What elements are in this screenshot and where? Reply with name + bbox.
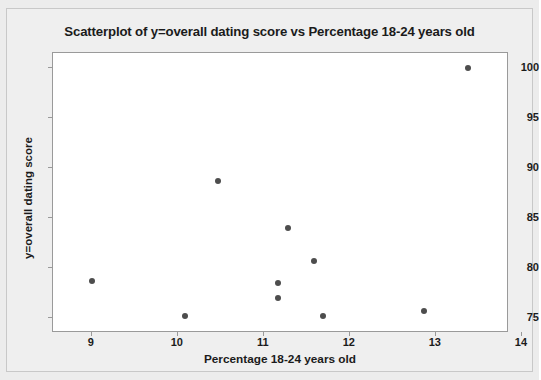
x-tick-label: 12 <box>329 336 369 348</box>
x-tick-mark <box>263 332 264 336</box>
x-tick-label: 14 <box>501 336 541 348</box>
scatter-point <box>182 313 188 319</box>
scatter-point <box>285 225 291 231</box>
scatter-point <box>89 278 95 284</box>
plot-frame <box>52 52 508 332</box>
x-axis-label: Percentage 18-24 years old <box>52 352 508 366</box>
x-tick-label: 13 <box>415 336 455 348</box>
scatter-plot-area <box>53 53 507 331</box>
scatter-point <box>320 313 326 319</box>
y-axis-label: y=overall dating score <box>22 118 34 278</box>
scatter-point <box>275 280 281 286</box>
x-tick-mark <box>521 332 522 336</box>
x-tick-label: 9 <box>71 336 111 348</box>
x-tick-label: 11 <box>243 336 283 348</box>
x-tick-mark <box>177 332 178 336</box>
scatter-point <box>465 65 471 71</box>
x-tick-label: 10 <box>157 336 197 348</box>
scatter-point <box>275 295 281 301</box>
scatter-point <box>311 258 317 264</box>
x-tick-mark <box>91 332 92 336</box>
x-tick-mark <box>349 332 350 336</box>
x-tick-mark <box>435 332 436 336</box>
scatter-point <box>421 308 427 314</box>
scatter-point <box>215 178 221 184</box>
